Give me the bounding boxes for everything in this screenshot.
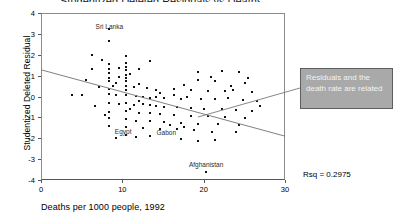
data-point <box>193 129 195 131</box>
data-point <box>259 105 261 107</box>
data-point <box>221 108 223 110</box>
point-label: Afghanistan <box>189 161 223 168</box>
data-point <box>176 106 178 108</box>
data-point <box>251 91 253 93</box>
data-point <box>180 98 182 100</box>
data-point <box>108 72 110 74</box>
data-point <box>118 103 120 105</box>
data-point <box>101 59 103 61</box>
clipped-figure-title: Studentized Deleted Residuals vs Deaths … <box>60 0 260 2</box>
data-point <box>108 63 110 65</box>
data-point <box>159 113 161 115</box>
y-tick-mark <box>38 34 41 35</box>
data-point <box>155 105 157 107</box>
data-point <box>256 100 258 102</box>
data-point <box>125 62 127 64</box>
data-point <box>104 114 106 116</box>
y-tick-label: -2 <box>19 134 35 143</box>
data-point <box>205 171 207 173</box>
data-point <box>224 90 226 92</box>
data-point <box>180 138 182 140</box>
data-point <box>190 89 192 91</box>
data-point <box>118 67 120 69</box>
data-point <box>163 97 165 99</box>
data-point <box>238 124 240 126</box>
y-tick-mark <box>38 117 41 118</box>
data-point <box>85 79 87 81</box>
data-point <box>108 68 110 70</box>
data-point <box>197 140 199 142</box>
data-point <box>190 115 192 117</box>
y-tick-mark <box>38 138 41 139</box>
y-tick-mark <box>38 13 41 14</box>
data-point <box>129 108 131 110</box>
data-point <box>115 94 117 96</box>
data-point <box>138 112 140 114</box>
x-tick-label: 0 <box>31 185 51 194</box>
data-point <box>224 116 226 118</box>
data-point <box>186 96 188 98</box>
data-point <box>138 100 140 102</box>
y-tick-mark <box>38 76 41 77</box>
data-point <box>125 110 127 112</box>
y-tick-label: 4 <box>19 9 35 18</box>
y-tick-mark <box>38 97 41 98</box>
data-point <box>125 89 127 91</box>
data-point <box>108 117 110 119</box>
data-point <box>115 82 117 84</box>
y-tick-mark <box>38 159 41 160</box>
data-point <box>138 68 140 70</box>
point-label: Sri Lanka <box>96 23 123 30</box>
data-point <box>91 54 93 56</box>
data-point <box>81 94 83 96</box>
x-tick-mark <box>285 180 286 183</box>
data-point <box>149 120 151 122</box>
data-point <box>91 68 93 70</box>
y-tick-label: -3 <box>19 155 35 164</box>
x-tick-mark <box>204 180 205 183</box>
data-point <box>203 108 205 110</box>
data-point <box>125 102 127 104</box>
data-point <box>125 66 127 68</box>
data-point <box>210 76 212 78</box>
data-point <box>108 88 110 90</box>
data-point <box>169 124 171 126</box>
data-point <box>129 73 131 75</box>
y-tick-label: 0 <box>19 93 35 102</box>
data-point <box>138 83 140 85</box>
data-point <box>94 105 96 107</box>
data-point <box>214 98 216 100</box>
data-point <box>207 115 209 117</box>
data-point <box>149 104 151 106</box>
data-point <box>142 103 144 105</box>
y-tick-mark <box>38 55 41 56</box>
data-point <box>244 82 246 84</box>
data-point <box>180 122 182 124</box>
data-point <box>230 85 232 87</box>
data-point <box>108 93 110 95</box>
data-point <box>251 110 253 112</box>
data-point <box>149 135 151 137</box>
data-point <box>173 88 175 90</box>
data-point <box>242 99 244 101</box>
data-point <box>115 137 117 139</box>
data-point <box>142 127 144 129</box>
data-point <box>190 107 192 109</box>
data-point <box>214 139 216 141</box>
point-label: Egypt <box>115 128 132 135</box>
data-point <box>211 131 213 133</box>
data-point <box>149 97 151 99</box>
data-point <box>146 87 148 89</box>
data-point <box>235 109 237 111</box>
data-point <box>235 131 237 133</box>
data-point <box>125 118 127 120</box>
data-point <box>159 92 161 94</box>
x-axis-title: Deaths per 1000 people, 1992 <box>41 202 165 212</box>
data-point <box>221 70 223 72</box>
data-point <box>163 106 165 108</box>
data-point <box>125 74 127 76</box>
data-point <box>197 71 199 73</box>
data-point <box>125 85 127 87</box>
data-point <box>142 96 144 98</box>
data-point <box>98 86 100 88</box>
